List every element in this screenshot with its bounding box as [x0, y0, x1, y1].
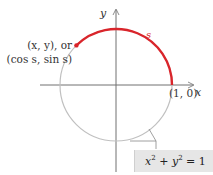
unit-point-label: (1, 0) — [169, 87, 197, 100]
point-marker — [74, 43, 78, 47]
equation-leader-line — [149, 129, 156, 149]
arc-length-label: s — [146, 28, 151, 41]
point-label: (x, y), or (cos s, sin s) — [6, 38, 72, 66]
eq-rhs: = 1 — [183, 155, 206, 168]
eq-plus: + — [156, 155, 172, 168]
equation-text: x2 + y2 = 1 — [145, 154, 206, 168]
unit-circle-diagram: y x s (1, 0) (x, y), or (cos s, sin s) x… — [0, 0, 213, 175]
point-label-line1: (x, y), or — [6, 38, 72, 52]
point-label-line2: (cos s, sin s) — [6, 52, 72, 66]
y-axis-label: y — [100, 7, 106, 20]
arc-s — [76, 29, 172, 85]
